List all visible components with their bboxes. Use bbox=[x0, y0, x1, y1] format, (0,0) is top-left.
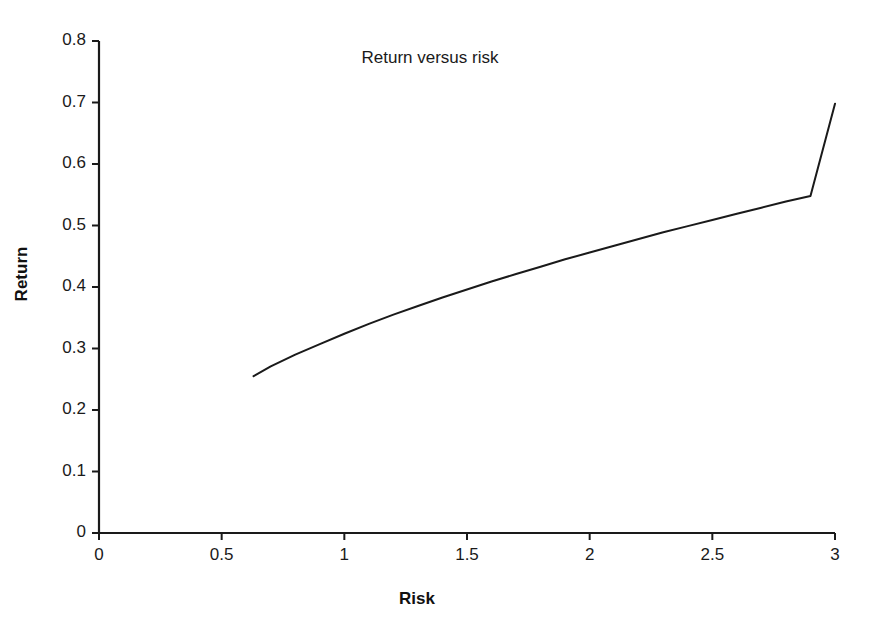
y-axis-label: Return bbox=[12, 224, 32, 324]
chart-figure: Return versus risk Return Risk 00.10.20.… bbox=[0, 0, 869, 634]
y-tick-label: 0.3 bbox=[34, 338, 86, 358]
y-tick-label: 0 bbox=[34, 522, 86, 542]
x-tick-label: 0.5 bbox=[192, 545, 252, 565]
x-tick-label: 2 bbox=[560, 545, 620, 565]
y-tick-label: 0.5 bbox=[34, 215, 86, 235]
x-axis-label: Risk bbox=[367, 589, 467, 609]
axis-lines bbox=[99, 41, 835, 533]
x-tick-label: 0 bbox=[69, 545, 129, 565]
chart-title: Return versus risk bbox=[300, 48, 560, 68]
y-tick-label: 0.2 bbox=[34, 399, 86, 419]
x-tick-label: 2.5 bbox=[682, 545, 742, 565]
data-series-lines bbox=[254, 104, 835, 376]
x-tick-label: 1 bbox=[314, 545, 374, 565]
y-tick-label: 0.7 bbox=[34, 92, 86, 112]
y-tick-label: 0.1 bbox=[34, 461, 86, 481]
x-tick-label: 1.5 bbox=[437, 545, 497, 565]
y-tick-label: 0.4 bbox=[34, 276, 86, 296]
y-tick-label: 0.6 bbox=[34, 153, 86, 173]
plot-canvas bbox=[0, 0, 869, 634]
y-tick-label: 0.8 bbox=[34, 30, 86, 50]
x-tick-label: 3 bbox=[805, 545, 865, 565]
